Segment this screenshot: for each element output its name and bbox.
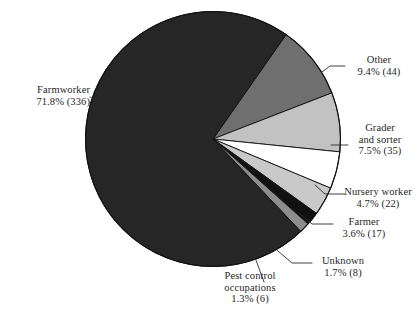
slice-label-farmworker-name: Farmworker (8, 84, 90, 96)
slice-label-pest-control: Pest control occupations 1.3% (6) (205, 270, 295, 305)
slice-label-other-value: 9.4% (44) (343, 66, 415, 78)
slice-label-farmer: Farmer 3.6% (17) (331, 216, 397, 239)
pie-slice-group (86, 12, 341, 267)
slice-label-other: Other 9.4% (44) (343, 54, 415, 77)
slice-label-grader-and-sorter: Grader and sorter 7.5% (35) (345, 122, 415, 157)
slice-label-pest-control-name1: Pest control (205, 270, 295, 282)
slice-label-farmer-value: 3.6% (17) (331, 228, 397, 240)
slice-label-unknown-value: 1.7% (8) (310, 267, 376, 279)
slice-label-grader-and-sorter-name2: and sorter (345, 134, 415, 146)
slice-label-unknown: Unknown 1.7% (8) (310, 255, 376, 278)
slice-label-grader-and-sorter-name1: Grader (345, 122, 415, 134)
leader-line-other (322, 66, 345, 72)
slice-label-nursery-worker: Nursery worker 4.7% (22) (339, 186, 417, 209)
slice-label-unknown-name: Unknown (310, 255, 376, 267)
pie-chart-figure: Farmworker 71.8% (336) Other 9.4% (44) G… (0, 0, 417, 317)
slice-label-farmer-name: Farmer (331, 216, 397, 228)
slice-label-nursery-worker-name: Nursery worker (339, 186, 417, 198)
slice-label-farmworker: Farmworker 71.8% (336) (8, 84, 90, 107)
slice-label-pest-control-name2: occupations (205, 282, 295, 294)
slice-label-grader-and-sorter-value: 7.5% (35) (345, 145, 415, 157)
slice-label-farmworker-value: 71.8% (336) (8, 96, 90, 108)
slice-label-nursery-worker-value: 4.7% (22) (339, 198, 417, 210)
slice-label-other-name: Other (343, 54, 415, 66)
slice-label-pest-control-value: 1.3% (6) (205, 293, 295, 305)
